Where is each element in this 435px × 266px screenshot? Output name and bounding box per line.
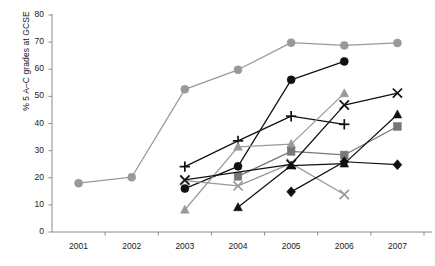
- marker-triangle: [393, 110, 402, 118]
- marker-square: [394, 123, 402, 131]
- data-point: [180, 161, 190, 171]
- marker-triangle: [340, 89, 349, 97]
- data-point: [393, 160, 402, 170]
- data-point: [340, 190, 349, 199]
- data-point: [340, 89, 349, 97]
- data-point: [286, 111, 296, 121]
- series-school-2: [181, 57, 348, 192]
- data-point: [287, 76, 295, 84]
- series-school-4: [181, 89, 349, 213]
- data-point: [339, 119, 349, 129]
- marker-circle: [181, 185, 189, 193]
- data-point: [287, 148, 295, 156]
- marker-circle: [234, 162, 242, 170]
- data-point: [287, 187, 296, 197]
- data-point: [75, 179, 83, 187]
- data-point: [234, 66, 242, 74]
- data-point: [340, 41, 348, 49]
- data-point: [340, 100, 349, 109]
- data-point: [394, 123, 402, 131]
- data-point: [234, 203, 243, 211]
- data-point: [393, 89, 402, 98]
- data-point: [393, 110, 402, 118]
- line-chart: % 5 A–C grades at GCSE 01020304050607080…: [0, 0, 435, 266]
- marker-diamond: [287, 187, 296, 197]
- data-point: [181, 85, 189, 93]
- data-point: [340, 57, 348, 65]
- data-point: [393, 39, 401, 47]
- data-point: [181, 185, 189, 193]
- series-school-7: [234, 110, 402, 211]
- marker-diamond: [393, 160, 402, 170]
- marker-circle: [287, 76, 295, 84]
- series-school-3: [180, 111, 350, 172]
- data-point: [234, 173, 242, 181]
- data-point: [234, 162, 242, 170]
- marker-circle: [287, 39, 295, 47]
- marker-square: [287, 148, 295, 156]
- marker-circle: [340, 41, 348, 49]
- marker-square: [234, 173, 242, 181]
- marker-circle: [393, 39, 401, 47]
- series-school-8: [180, 89, 402, 185]
- series-school-9: [287, 157, 402, 197]
- marker-circle: [234, 66, 242, 74]
- data-point: [128, 173, 136, 181]
- plot-area: [0, 0, 435, 266]
- marker-triangle: [234, 203, 243, 211]
- marker-circle: [340, 57, 348, 65]
- marker-circle: [75, 179, 83, 187]
- series-line: [185, 93, 344, 209]
- data-point: [287, 39, 295, 47]
- marker-circle: [128, 173, 136, 181]
- marker-circle: [181, 85, 189, 93]
